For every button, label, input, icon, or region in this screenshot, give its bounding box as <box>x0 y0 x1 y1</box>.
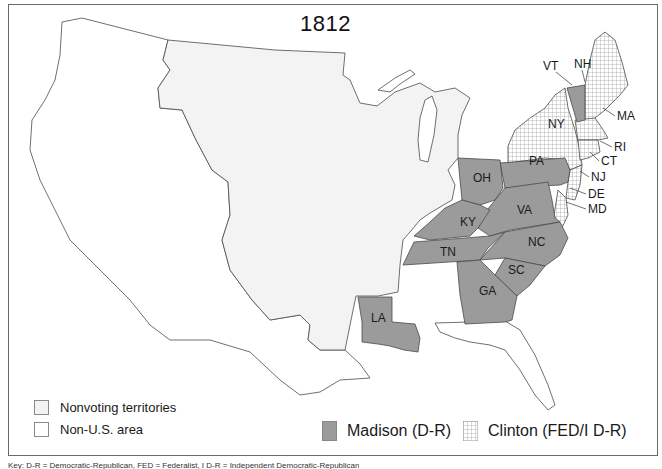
label-ct: CT <box>601 154 618 168</box>
clinton-label: Clinton (FED/I D-R) <box>488 422 627 440</box>
label-nj: NJ <box>591 170 606 184</box>
madison-swatch <box>322 421 337 441</box>
label-nh: NH <box>574 57 591 71</box>
nonvoting-label: Nonvoting territories <box>60 400 176 415</box>
clinton-swatch <box>463 421 478 441</box>
key-caption: Key: D-R = Democratic-Republican, FED = … <box>8 461 359 469</box>
non-us-label: Non-U.S. area <box>60 422 143 437</box>
label-vt: VT <box>543 59 559 73</box>
label-md: MD <box>588 202 607 216</box>
label-pa: PA <box>529 154 544 168</box>
state-la <box>358 297 420 352</box>
label-nc: NC <box>528 235 546 249</box>
label-ri: RI <box>614 140 626 154</box>
label-ky: KY <box>460 215 476 229</box>
label-oh: OH <box>473 171 491 185</box>
label-la: LA <box>371 311 386 325</box>
label-ny: NY <box>548 117 565 131</box>
nonvoting-swatch <box>34 400 49 415</box>
legend-item-non-us: Non-U.S. area <box>34 418 176 440</box>
label-ma: MA <box>617 109 635 123</box>
state-ct-ri <box>578 140 600 160</box>
legend-item-nonvoting: Nonvoting territories <box>34 396 176 418</box>
legend-candidates: Madison (D-R) Clinton (FED/I D-R) <box>322 421 627 441</box>
map-title: 1812 <box>300 11 351 37</box>
madison-label: Madison (D-R) <box>347 422 451 440</box>
non-us-swatch <box>34 422 49 437</box>
label-sc: SC <box>508 263 525 277</box>
label-ga: GA <box>479 284 496 298</box>
label-de: DE <box>588 187 605 201</box>
label-tn: TN <box>440 245 456 259</box>
label-va: VA <box>517 203 532 217</box>
legend-territories: Nonvoting territories Non-U.S. area <box>34 396 176 440</box>
non-us-area-florida <box>435 321 555 410</box>
